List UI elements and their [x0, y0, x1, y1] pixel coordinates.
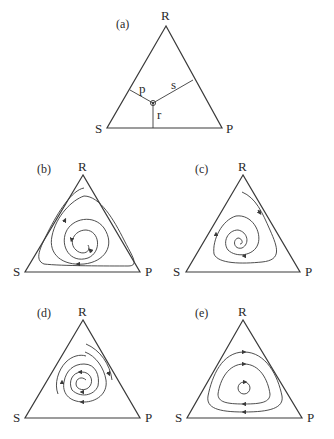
simplex-triangle	[186, 175, 300, 272]
distance-label-p: p	[139, 82, 146, 95]
outward-spiral-trajectory	[39, 188, 134, 266]
simplex-triangle	[25, 175, 140, 272]
panel-label-a: (a)	[116, 18, 129, 30]
panel-label-c: (c)	[195, 163, 208, 175]
simplex-triangle	[107, 26, 222, 128]
vertex-label-r: R	[238, 305, 247, 318]
vertex-label-p: P	[226, 122, 233, 135]
vertex-label-p: P	[307, 411, 314, 424]
vertex-label-r: R	[78, 305, 87, 318]
panel-c-diagram	[186, 175, 300, 272]
vertex-label-s: S	[173, 265, 180, 278]
vertex-label-s: S	[175, 411, 182, 424]
simplex-triangle	[187, 320, 302, 418]
panel-label-b: (b)	[37, 163, 51, 175]
vertex-label-r: R	[161, 9, 170, 22]
distance-label-r: r	[157, 108, 161, 121]
panel-label-d: (d)	[37, 307, 51, 319]
figure-canvas	[0, 0, 334, 439]
vertex-label-s: S	[13, 411, 20, 424]
periodic-orbit-middle	[218, 364, 270, 404]
panel-b-diagram	[25, 175, 140, 272]
distance-label-s: s	[171, 78, 176, 91]
panel-label-e: (e)	[195, 307, 208, 319]
vertex-label-r: R	[238, 160, 247, 173]
simplex-triangle	[25, 320, 140, 418]
vertex-label-s: S	[13, 265, 20, 278]
periodic-orbit-inner	[238, 382, 250, 394]
vertex-label-p: P	[305, 265, 312, 278]
vertex-label-p: P	[145, 411, 152, 424]
limit-cycle-trajectory	[64, 352, 107, 402]
panel-d-diagram	[25, 320, 140, 418]
vertex-label-p: P	[145, 265, 152, 278]
vertex-label-r: R	[78, 160, 87, 173]
inward-spiral-trajectory	[214, 192, 277, 263]
panel-e-diagram	[187, 320, 302, 418]
panel-a-diagram	[107, 26, 222, 128]
vertex-label-s: S	[95, 122, 102, 135]
